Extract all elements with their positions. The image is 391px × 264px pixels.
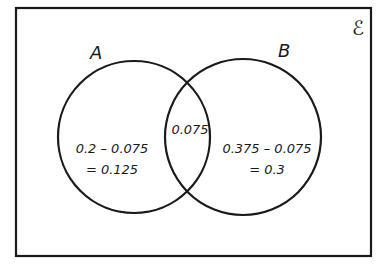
set-a-label: A: [89, 42, 102, 63]
universal-set-label: ℰ: [352, 16, 364, 40]
region-b-only-line2: = 0.3: [249, 162, 285, 177]
region-a-only-line2: = 0.125: [86, 162, 138, 177]
region-intersection: 0.075: [171, 122, 208, 137]
set-b-label: B: [278, 40, 290, 61]
region-a-only-line1: 0.2 – 0.075: [76, 141, 149, 156]
region-b-only-line1: 0.375 – 0.075: [222, 141, 311, 156]
venn-diagram: ℰ A B 0.2 – 0.075 = 0.125 0.075 0.375 – …: [0, 0, 391, 264]
